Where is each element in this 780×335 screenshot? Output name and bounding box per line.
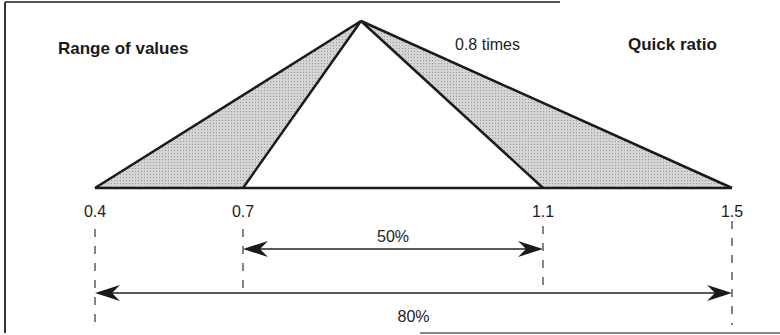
tick-label: 1.5 (721, 203, 743, 220)
tick-label: 0.4 (84, 203, 106, 220)
outer-range-arrow: 80% (95, 285, 732, 325)
outer-range-label: 80% (397, 308, 429, 325)
tick-label: 1.1 (532, 203, 554, 220)
tick-label: 0.7 (232, 203, 254, 220)
quick-ratio-title: Quick ratio (628, 35, 717, 54)
apex-annotation: 0.8 times (455, 36, 520, 53)
inner-range-arrow: 50% (243, 228, 543, 257)
range-of-values-title: Range of values (58, 39, 188, 58)
inner-range-label: 50% (377, 228, 409, 245)
quick-ratio-range-diagram: Range of values Quick ratio 0.8 times 0.… (0, 0, 780, 335)
